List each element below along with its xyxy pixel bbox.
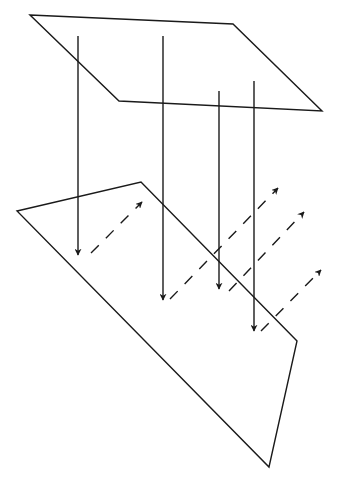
reflection-diagram (0, 0, 337, 482)
reflected-ray-arrow (170, 188, 278, 299)
top-plane (30, 15, 322, 111)
incident-rays (78, 36, 254, 331)
reflected-rays (91, 188, 321, 331)
reflected-ray-arrow (229, 212, 304, 291)
diagram-canvas (0, 0, 337, 482)
bottom-plane (17, 182, 297, 467)
reflected-ray-arrow (261, 270, 321, 331)
reflected-ray-arrow (91, 202, 142, 253)
